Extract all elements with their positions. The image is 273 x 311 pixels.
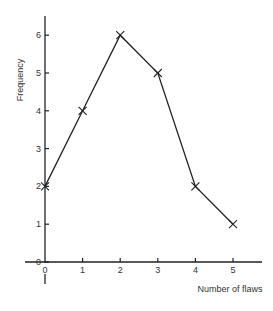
x-tick-label: 1 [80, 265, 85, 275]
series-line [45, 35, 233, 224]
y-ticks: 0123456 [36, 30, 49, 267]
y-axis-label: Frequency [15, 58, 25, 101]
y-tick-label: 6 [36, 30, 41, 40]
y-tick-label: 2 [36, 181, 41, 191]
x-tick-label: 4 [193, 265, 198, 275]
x-marker-icon [116, 31, 124, 39]
y-tick-label: 1 [36, 219, 41, 229]
x-marker-icon [229, 220, 237, 228]
x-tick-label: 3 [155, 265, 160, 275]
y-tick-label: 4 [36, 106, 41, 116]
x-tick-label: 0 [42, 265, 47, 275]
frequency-polygon-chart: 0123456 012345 Frequency Number of flaws [0, 0, 273, 311]
x-marker-icon [191, 182, 199, 190]
x-ticks: 012345 [42, 258, 235, 275]
x-tick-label: 2 [118, 265, 123, 275]
y-tick-label: 0 [36, 257, 41, 267]
x-tick-label: 5 [230, 265, 235, 275]
x-axis-label: Number of flaws [197, 284, 263, 294]
y-tick-label: 3 [36, 144, 41, 154]
x-marker-icon [79, 107, 87, 115]
x-marker-icon [154, 69, 162, 77]
axes [25, 16, 262, 284]
y-tick-label: 5 [36, 68, 41, 78]
